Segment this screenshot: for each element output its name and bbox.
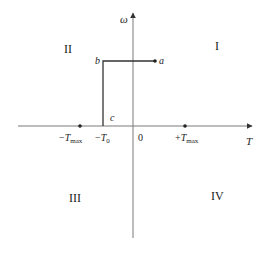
quadrant-i-label: I [215, 39, 219, 53]
point-a-label: a [159, 55, 164, 66]
omega-axis-label: ω [120, 13, 128, 25]
neg-tmax-dot [78, 124, 82, 128]
four-quadrant-diagram: ω T 0 b a c −Tmax −T0 +Tmax II I III IV [0, 0, 272, 253]
neg-t0-label: −T0 [95, 132, 110, 145]
point-a-dot [153, 59, 157, 63]
neg-tmax-sub: max [70, 137, 83, 145]
neg-t0-sub: 0 [106, 137, 110, 145]
pos-tmax-dot [183, 124, 187, 128]
point-c-label: c [110, 112, 115, 123]
origin-label: 0 [138, 132, 143, 143]
pos-tmax-sub: max [186, 137, 199, 145]
t-axis-label: T [246, 135, 253, 147]
quadrant-iv-label: IV [211, 189, 224, 203]
point-b-label: b [95, 55, 100, 66]
neg-tmax-label: −Tmax [59, 132, 83, 145]
pos-tmax-label: +Tmax [175, 132, 199, 145]
quadrant-ii-label: II [64, 42, 72, 56]
quadrant-iii-label: III [69, 191, 81, 205]
